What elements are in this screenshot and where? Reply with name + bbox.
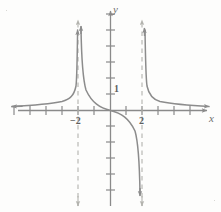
y-axis [106, 11, 115, 206]
graph-figure: y x 1 −2 2 [0, 0, 221, 212]
curve-right-branch [144, 28, 209, 107]
y-tick-label-1: 1 [114, 84, 119, 94]
x-tick-label-2: 2 [139, 116, 144, 126]
scan-speck [214, 200, 215, 201]
scan-speck [6, 10, 7, 11]
y-axis-label: y [113, 4, 118, 15]
graph-canvas [0, 0, 221, 212]
x-tick-label-neg-2: −2 [70, 116, 81, 126]
curve-left-branch [12, 30, 78, 107]
x-axis-label: x [209, 113, 214, 124]
